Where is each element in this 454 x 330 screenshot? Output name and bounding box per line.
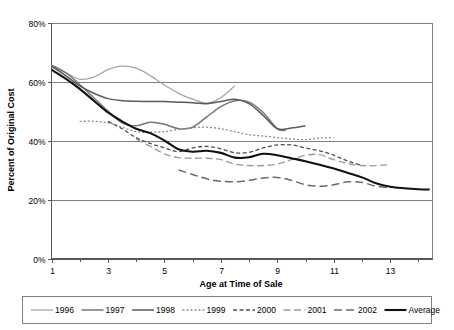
y-axis-title: Percent of Original Cost: [6, 88, 16, 191]
grid-lines: [52, 24, 433, 260]
x-tick-label: 13: [386, 266, 396, 276]
series-line-2001: [136, 139, 390, 166]
x-tick-label: 1: [50, 266, 55, 276]
y-tick-label: 40%: [28, 137, 45, 147]
x-tick-label: 5: [162, 266, 167, 276]
legend-label-2000: 2000: [257, 305, 276, 315]
legend-label-1998: 1998: [156, 305, 175, 315]
legend-label-1997: 1997: [106, 305, 125, 315]
x-tick-label: 3: [106, 266, 111, 276]
y-tick-label: 20%: [28, 196, 45, 206]
y-tick-label: 0%: [33, 255, 46, 265]
x-tick-label: 7: [219, 266, 224, 276]
series-line-average: [52, 70, 430, 190]
y-tick-label: 80%: [28, 19, 45, 29]
legend-label-1996: 1996: [55, 305, 74, 315]
series-line-1997: [52, 65, 286, 130]
x-axis-title: Age at Time of Sale: [200, 279, 283, 289]
series-line-2002: [179, 170, 391, 188]
y-tick-label: 60%: [28, 78, 45, 88]
legend-label-1999: 1999: [207, 305, 226, 315]
x-tick-label: 11: [330, 266, 339, 276]
x-axis: 135791113: [50, 23, 432, 276]
plot-series: [52, 65, 430, 189]
y-axis: 0%20%40%60%80%: [28, 19, 51, 265]
legend-label-2001: 2001: [308, 305, 327, 315]
series-line-1999: [80, 121, 334, 139]
legend: 1996199719981999200020012002Average: [23, 297, 441, 324]
legend-label-2002: 2002: [358, 305, 377, 315]
x-tick-label: 9: [275, 266, 280, 276]
legend-label-average: Average: [409, 305, 441, 315]
line-chart: 0%20%40%60%80% 135791113 Percent of Orig…: [0, 0, 454, 330]
chart-container: 0%20%40%60%80% 135791113 Percent of Orig…: [0, 0, 454, 330]
